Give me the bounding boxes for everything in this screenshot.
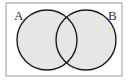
set-a-label: A [14,8,24,23]
set-b-label: B [108,8,117,23]
venn-diagram: A B [0,0,130,81]
